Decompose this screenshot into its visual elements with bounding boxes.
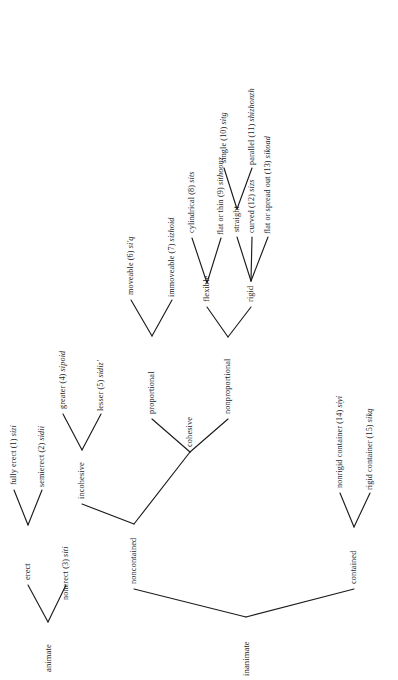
- tree-edges: [0, 0, 398, 680]
- edge-rigid-curved: [251, 237, 252, 281]
- node-nonerect: nonerect (3) siti: [62, 546, 70, 600]
- node-straight: straight: [233, 206, 241, 232]
- node-noncontained: noncontained: [130, 538, 138, 584]
- edge-animate-erect: [28, 585, 48, 622]
- edge-noncontained-incohesive: [82, 504, 134, 524]
- edge-noncontained-cohesive: [134, 452, 190, 524]
- edge-proportional-moveable: [131, 300, 152, 336]
- node-rigid-container: rigid container (15) sikq: [366, 409, 374, 490]
- gloss-term: si'q: [126, 237, 135, 249]
- node-cylindrical: cylindrical (8) sits: [188, 171, 196, 233]
- node-contained: contained: [350, 551, 358, 584]
- node-rigid: rigid: [247, 286, 255, 302]
- gloss-term: sipoid: [58, 351, 67, 372]
- tree-diagram-figure: animate erect nonerect (3) siti fully er…: [0, 0, 398, 680]
- gloss-term: sizhoid: [167, 217, 176, 241]
- edge-inanimate-contained: [246, 589, 354, 617]
- edge-erect-fullyerect: [14, 490, 28, 525]
- node-moveable: moveable (6) si'q: [127, 237, 135, 296]
- gloss-term: sitg: [219, 112, 228, 124]
- node-single: single (10) sitg: [220, 112, 228, 163]
- node-greater: greater (4) sipoid: [59, 351, 67, 409]
- gloss-term: siyi: [335, 396, 344, 408]
- edge-contained-nonrigid: [340, 493, 354, 527]
- gloss-term: shizhonzh: [247, 88, 256, 121]
- node-flat-or-thin: flat or thin (9) sithoonz: [217, 157, 225, 235]
- edge-incohesive-greater: [63, 414, 82, 450]
- gloss-term: siti: [61, 546, 70, 556]
- node-semierect: semierect (2) sidii: [38, 426, 46, 487]
- edge-nonproportional-rigid: [228, 307, 251, 337]
- gloss-term: sits: [187, 171, 196, 182]
- node-flat-or-spread-out: flat or spread out (13) sikoad: [264, 136, 272, 234]
- edge-nonproportional-flexible: [207, 307, 228, 337]
- node-flexible: flexible: [203, 276, 211, 302]
- gloss-term: sizs: [247, 180, 256, 192]
- node-animate: animate: [44, 644, 53, 672]
- edge-rigid-flatorspreadout: [251, 237, 268, 281]
- node-cohesive: cohesive: [186, 417, 194, 447]
- edge-inanimate-noncontained: [134, 589, 246, 617]
- edge-contained-rigid: [354, 493, 370, 527]
- edge-cohesive-nonproportional: [190, 419, 228, 452]
- gloss-term: sidii: [37, 426, 46, 441]
- node-proportional: proportional: [148, 371, 156, 414]
- node-lesser: lesser (5) sidiz': [97, 360, 105, 411]
- node-nonproportional: nonproportional: [224, 359, 232, 414]
- edge-straight-single: [224, 168, 237, 209]
- gloss-term: sidiz': [96, 360, 105, 377]
- edge-incohesive-lesser: [82, 414, 101, 450]
- node-erect: erect: [24, 563, 32, 580]
- node-fully-erect: fully erect (1) sizi: [10, 425, 18, 485]
- node-immoveable: immoveable (7) sizhoid: [168, 217, 176, 297]
- node-incohesive: incohesive: [78, 462, 86, 499]
- node-curved: curved (12) sizs: [248, 180, 256, 233]
- node-parallel: parallel (11) shizhonzh: [248, 88, 256, 165]
- edge-erect-semierect: [28, 490, 42, 525]
- node-inanimate: inanimate: [242, 641, 251, 676]
- edge-rigid-straight: [237, 237, 251, 281]
- gloss-term: sizi: [9, 425, 18, 436]
- gloss-term: sikq: [365, 409, 374, 423]
- node-nonrigid-container: nonrigid container (14) siyi: [336, 396, 344, 488]
- edge-proportional-immoveable: [152, 300, 172, 336]
- gloss-term: sikoad: [263, 136, 272, 158]
